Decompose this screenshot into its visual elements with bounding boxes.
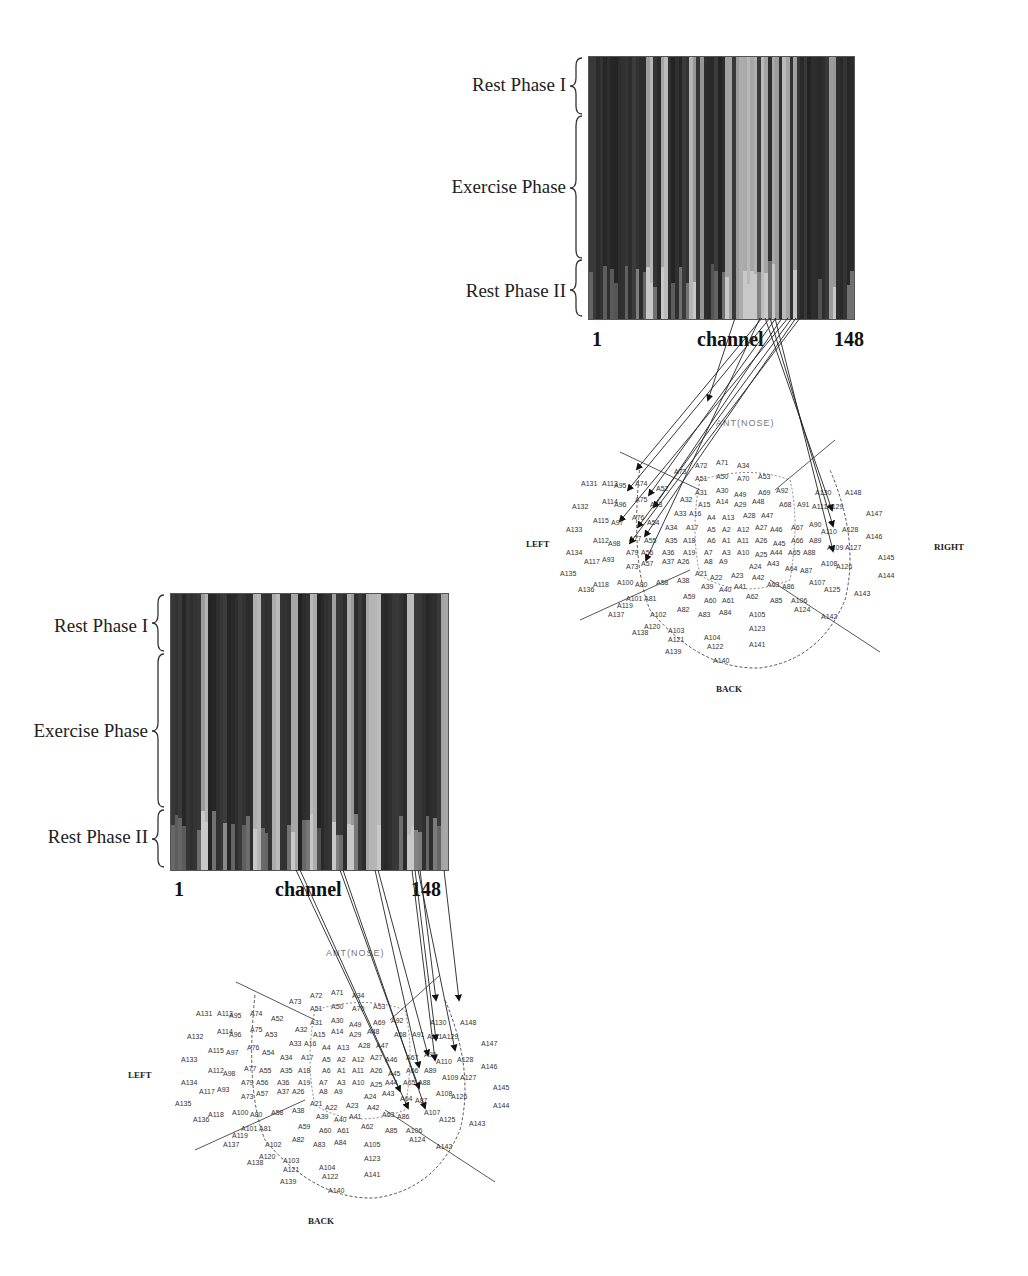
sensor-label: A89 (424, 1067, 436, 1074)
sensor-label: A142 (436, 1143, 452, 1150)
sensor-label: A139 (280, 1178, 296, 1185)
sensor-label: A5 (707, 526, 716, 533)
sensor-label: A26 (370, 1067, 382, 1074)
sensor-label: A47 (761, 512, 773, 519)
sensor-label: A8 (319, 1088, 328, 1095)
top-map-right-label: RIGHT (934, 542, 964, 552)
sensor-label: A132 (572, 503, 588, 510)
sensor-label: A126 (451, 1093, 467, 1100)
sensor-label: A121 (283, 1166, 299, 1173)
sensor-label: A55 (259, 1067, 271, 1074)
bottom-label-exercise-phase: Exercise Phase (34, 720, 148, 742)
sensor-label: A91 (797, 501, 809, 508)
sensor-label: A100 (232, 1109, 248, 1116)
sensor-label: A29 (734, 501, 746, 508)
sensor-label: A132 (187, 1033, 203, 1040)
sensor-label: A31 (310, 1019, 322, 1026)
sensor-label: A133 (566, 526, 582, 533)
sensor-label: A33 (289, 1040, 301, 1047)
sensor-label: A131 (196, 1010, 212, 1017)
sensor-label: A111 (427, 1033, 442, 1040)
sensor-label: A127 (845, 544, 861, 551)
sensor-label: A93 (602, 556, 614, 563)
sensor-label: A77 (244, 1065, 256, 1072)
sensor-label: A56 (641, 549, 653, 556)
sensor-label: A127 (460, 1074, 476, 1081)
sensor-label: A57 (256, 1090, 268, 1097)
sensor-label: A76 (247, 1044, 259, 1051)
sensor-label: A129 (827, 503, 843, 510)
sensor-label: A54 (262, 1049, 274, 1056)
sensor-label: A54 (647, 519, 659, 526)
sensor-label: A58 (271, 1109, 283, 1116)
top-axis-title: channel (697, 328, 764, 351)
sensor-label: A93 (217, 1086, 229, 1093)
sensor-label: A122 (322, 1173, 338, 1180)
sensor-label: A6 (322, 1067, 331, 1074)
sensor-label: A90 (809, 521, 821, 528)
sensor-label: A44 (770, 549, 782, 556)
sensor-label: A26 (755, 537, 767, 544)
sensor-label: A68 (394, 1031, 406, 1038)
top-phase-braces (568, 56, 588, 318)
sensor-label: A16 (304, 1040, 316, 1047)
sensor-label: A53 (373, 1003, 385, 1010)
sensor-label: A21 (695, 570, 707, 577)
sensor-label: A108 (436, 1090, 452, 1097)
sensor-label: A59 (298, 1123, 310, 1130)
sensor-label: A73 (674, 468, 686, 475)
sensor-label: A79 (241, 1079, 253, 1086)
sensor-label: A72 (695, 462, 707, 469)
sensor-label: A11 (737, 537, 749, 544)
sensor-label: A73 (626, 563, 638, 570)
sensor-label: A10 (737, 549, 749, 556)
sensor-label: A1 (337, 1067, 346, 1074)
sensor-label: A30 (716, 487, 728, 494)
sensor-label: A38 (292, 1107, 304, 1114)
bottom-map-left-label: LEFT (128, 1070, 152, 1080)
sensor-label: A18 (683, 537, 695, 544)
sensor-label: A82 (292, 1136, 304, 1143)
sensor-label: A17 (686, 524, 698, 531)
sensor-label: A3 (722, 549, 731, 556)
sensor-label: A118 (208, 1111, 224, 1118)
sensor-label: A12 (352, 1056, 364, 1063)
sensor-label: A67 (406, 1054, 418, 1061)
sensor-label: A28 (743, 512, 755, 519)
sensor-label: A32 (295, 1026, 307, 1033)
sensor-label: A123 (364, 1155, 380, 1162)
sensor-label: A75 (635, 496, 647, 503)
sensor-label: A29 (349, 1031, 361, 1038)
sensor-label: A3 (337, 1079, 346, 1086)
sensor-label: A107 (424, 1109, 440, 1116)
sensor-label: A75 (250, 1026, 262, 1033)
sensor-label: A34 (665, 524, 677, 531)
sensor-label: A148 (845, 489, 861, 496)
sensor-label: A45 (773, 540, 785, 547)
sensor-label: A135 (560, 570, 576, 577)
sensor-label: A72 (310, 992, 322, 999)
sensor-label: A84 (334, 1139, 346, 1146)
sensor-label: A102 (265, 1141, 281, 1148)
sensor-label: A27 (370, 1054, 382, 1061)
sensor-label: A53 (758, 473, 770, 480)
sensor-label: A14 (716, 498, 728, 505)
sensor-label: A34 (280, 1054, 292, 1061)
sensor-label: A87 (800, 567, 812, 574)
sensor-label: A85 (385, 1127, 397, 1134)
sensor-label: A52 (271, 1015, 283, 1022)
sensor-label: A91 (412, 1031, 424, 1038)
sensor-label: A37 (662, 558, 674, 565)
sensor-label: A35 (280, 1067, 292, 1074)
sensor-label: A13 (337, 1044, 349, 1051)
sensor-label: A68 (779, 501, 791, 508)
sensor-label: A10 (352, 1079, 364, 1086)
top-label-rest-phase-2: Rest Phase II (466, 280, 566, 302)
top-axis-end: 148 (834, 328, 864, 351)
sensor-label: A135 (175, 1100, 191, 1107)
sensor-label: A13 (722, 514, 734, 521)
sensor-label: A136 (193, 1116, 209, 1123)
sensor-label: A4 (322, 1044, 331, 1051)
sensor-label: A17 (301, 1054, 313, 1061)
sensor-label: A70 (737, 475, 749, 482)
